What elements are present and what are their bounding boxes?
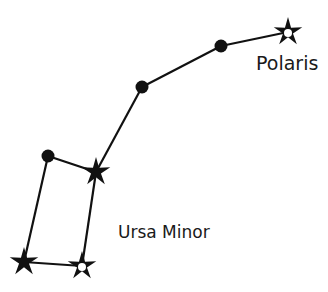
connection-line-s3-s4 (96, 87, 142, 172)
star-dot-s2 (215, 40, 228, 53)
star-dot-s5 (42, 150, 55, 163)
ursa-minor-diagram: Polaris Ursa Minor (0, 0, 328, 292)
polaris-label: Polaris (256, 52, 318, 74)
star-icon-s6 (10, 247, 39, 274)
connection-line-s2-s3 (142, 46, 221, 87)
star-hollow-center (284, 29, 292, 37)
star-shape (82, 157, 111, 184)
star-dot-s3 (136, 81, 149, 94)
constellation-name-label: Ursa Minor (118, 222, 210, 242)
connection-line-s5-s6 (24, 156, 48, 262)
connection-line-polaris-s2 (221, 32, 288, 46)
connection-line-s7-s4 (82, 172, 96, 266)
polaris-star-icon (274, 17, 303, 44)
star-shape (10, 247, 39, 274)
star-hollow-center (78, 263, 86, 271)
star-icon-s4 (82, 157, 111, 184)
